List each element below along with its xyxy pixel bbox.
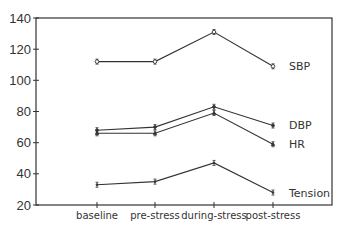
y-tick-label: 20 [17, 198, 31, 213]
open-circle-marker-icon [95, 60, 99, 64]
y-tick-label: 100 [9, 73, 31, 88]
series-label-dbp: DBP [289, 119, 312, 132]
x-tick-label: pre-stress [130, 210, 180, 221]
open-circle-marker-icon [271, 65, 275, 69]
y-axis: 20 40 60 80 100 120 140 [9, 11, 39, 213]
filled-dot-marker-icon [154, 126, 157, 129]
open-circle-marker-icon [212, 30, 216, 34]
series-label-tension: Tension [288, 187, 330, 200]
filled-dot-marker-icon [272, 124, 275, 127]
x-tick-label: baseline [76, 210, 118, 221]
triangle-marker-icon [95, 132, 98, 135]
y-tick-label: 40 [17, 166, 31, 181]
y-tick-label: 140 [9, 11, 31, 26]
line-chart: 20 40 60 80 100 120 140 baseline pre-str… [0, 0, 343, 230]
series-label-sbp: SBP [289, 60, 311, 73]
triangle-marker-icon [271, 142, 274, 145]
open-circle-marker-icon [153, 60, 157, 64]
y-tick-label: 60 [17, 135, 31, 150]
triangle-marker-icon [212, 111, 215, 114]
x-tick-label: during-stress [181, 210, 246, 221]
series-tension [96, 160, 275, 195]
triangle-marker-icon [153, 132, 156, 135]
series-line [97, 32, 273, 66]
series-label-hr: HR [289, 138, 305, 151]
tick-marker-icon [154, 181, 156, 183]
y-tick-label: 80 [17, 104, 31, 119]
x-tick-label: post-stress [246, 210, 301, 221]
tick-marker-icon [213, 162, 215, 164]
series-dbp [96, 104, 275, 132]
tick-marker-icon [96, 184, 98, 186]
tick-marker-icon [272, 192, 274, 194]
y-tick-label: 120 [9, 42, 31, 57]
series-layer [95, 30, 275, 196]
series-sbp [95, 30, 275, 69]
series-line [97, 107, 273, 130]
plot-frame [36, 18, 332, 205]
series-line [97, 163, 273, 193]
filled-dot-marker-icon [213, 105, 216, 108]
